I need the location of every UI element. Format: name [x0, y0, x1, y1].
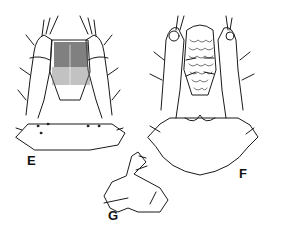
figure-drawing [0, 0, 281, 234]
panel-label-e: E [27, 153, 36, 168]
panel-f-scales [189, 40, 213, 90]
panel-f-drawing [148, 16, 258, 175]
panel-e-stipple [52, 42, 90, 90]
panel-label-g: G [108, 208, 118, 223]
panel-label-f: F [239, 166, 247, 181]
panel-g-drawing [104, 152, 168, 212]
